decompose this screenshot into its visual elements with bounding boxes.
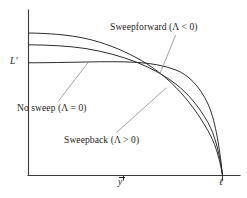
leader-no-sweep <box>59 62 89 101</box>
label-sweepback: Sweepback (Λ > 0) <box>64 136 139 146</box>
overbar-glyph <box>119 177 125 178</box>
x-axis-end-label-ell: ℓ <box>219 178 223 188</box>
curve-sweepback <box>29 62 223 175</box>
x-axis-tick-label-ybar: y <box>118 178 122 188</box>
label-sweepforward: Sweepforward (Λ < 0) <box>110 23 198 33</box>
y-axis-label-l-prime: L′ <box>10 57 18 67</box>
label-no-sweep: No sweep (Λ = 0) <box>17 104 87 114</box>
x-axis-tick-label-ybar-text: y <box>118 177 122 187</box>
figure-container: Sweepforward (Λ < 0) No sweep (Λ = 0) Sw… <box>0 0 247 198</box>
leader-sweepback <box>117 88 167 133</box>
